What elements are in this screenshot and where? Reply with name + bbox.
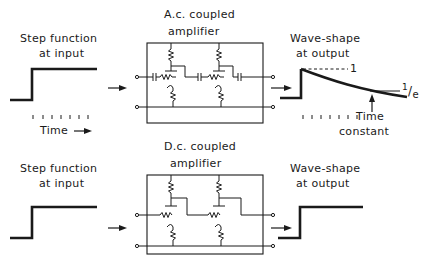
bottom-input-arrow-icon	[108, 225, 127, 231]
bottom-input-label-line1: Step function	[20, 162, 97, 176]
top-step-input-waveform	[10, 69, 97, 100]
inverse-e-denominator: e	[412, 89, 418, 100]
top-input-arrow-icon	[108, 85, 127, 91]
time-label: Time	[40, 124, 68, 138]
ac-amplifier-title-line1: A.c. coupled	[164, 8, 235, 22]
top-input-label-line1: Step function	[20, 32, 97, 46]
dc-coupled-amplifier-circuit	[135, 175, 274, 254]
level-one-label: 1	[350, 62, 357, 76]
ac-output-decay-waveform	[280, 69, 407, 119]
dc-amplifier-title-line1: D.c. coupled	[164, 140, 236, 154]
top-input-label-line2: at input	[39, 47, 84, 61]
ac-amplifier-title-line2: amplifier	[168, 25, 219, 39]
top-output-arrow-icon	[271, 85, 292, 91]
ac-coupled-amplifier-circuit	[135, 43, 274, 123]
top-output-label-line2: at output	[296, 47, 350, 61]
bottom-output-label-line2: at output	[296, 177, 350, 191]
bottom-step-input-waveform	[10, 207, 97, 238]
bottom-output-label-line1: Wave-shape	[290, 162, 360, 176]
level-inverse-e-label: 1/e	[402, 80, 419, 102]
time-arrow-icon	[74, 128, 92, 134]
bottom-output-arrow-icon	[271, 225, 292, 231]
top-output-label-line1: Wave-shape	[290, 32, 360, 46]
time-constant-label-line1: Time	[356, 110, 384, 124]
time-constant-label-line2: constant	[339, 125, 389, 139]
dc-amplifier-title-line2: amplifier	[170, 157, 221, 171]
dc-output-step-waveform	[278, 207, 363, 238]
top-time-ticks	[33, 115, 88, 119]
bottom-input-label-line2: at input	[39, 177, 84, 191]
